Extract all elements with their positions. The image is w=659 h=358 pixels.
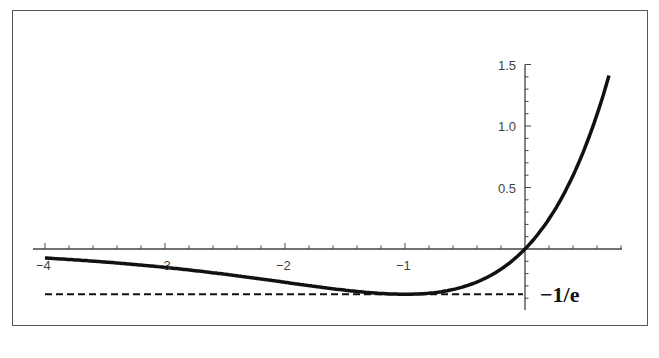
- y-tick-label: 1.0: [498, 119, 516, 134]
- x-tick-label: −2: [276, 258, 291, 273]
- y-tick-label: 0.5: [498, 181, 516, 196]
- x-tick-label: −3: [156, 258, 171, 273]
- minus-1-over-e-annotation: −1/e: [540, 282, 580, 307]
- y-tick-label: 1.5: [498, 58, 516, 73]
- x-tick-label: −4: [36, 258, 51, 273]
- y-axis: [525, 65, 531, 311]
- line-chart: −4 −3 −2 −1 0.5 1.0 1.5 −1/e: [0, 0, 659, 358]
- x-tick-label: −1: [396, 258, 411, 273]
- x-axis: [33, 243, 622, 249]
